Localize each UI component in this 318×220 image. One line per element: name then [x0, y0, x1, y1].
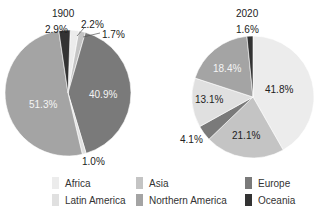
legend: Africa Asia Europe Latin America Norther… [52, 177, 318, 217]
label-2020-northern-america: 18.4% [213, 63, 241, 74]
label-1900-oceania: 2.9% [45, 24, 68, 35]
label-2020-europe: 4.1% [180, 134, 203, 145]
label-1900-asia: 1.7% [102, 29, 125, 40]
legend-item-oceania: Oceania [245, 194, 295, 206]
legend-swatch-icon [52, 177, 59, 189]
legend-item-northern-america: Northern America [136, 194, 227, 206]
legend-swatch-icon [136, 194, 143, 206]
legend-swatch-icon [136, 177, 143, 189]
legend-label: Latin America [65, 195, 126, 206]
legend-item-asia: Asia [136, 177, 168, 189]
legend-label: Africa [65, 178, 91, 189]
legend-swatch-icon [245, 177, 252, 189]
label-1900-africa: 2.2% [81, 19, 104, 30]
label-1900-latin-america: 1.0% [82, 156, 105, 167]
legend-item-latin-america: Latin America [52, 194, 126, 206]
legend-label: Oceania [258, 195, 295, 206]
legend-swatch-icon [52, 194, 59, 206]
legend-item-africa: Africa [52, 177, 91, 189]
label-2020-latin-america: 13.1% [195, 94, 223, 105]
label-2020-africa: 41.8% [265, 84, 293, 95]
label-2020-oceania: 1.6% [236, 24, 259, 35]
legend-label: Northern America [149, 195, 227, 206]
label-2020-asia: 21.1% [232, 130, 260, 141]
label-1900-northern-america: 51.3% [29, 99, 57, 110]
label-1900-europe: 40.9% [89, 89, 117, 100]
legend-label: Asia [149, 178, 168, 189]
legend-swatch-icon [245, 194, 252, 206]
legend-label: Europe [258, 178, 290, 189]
legend-item-europe: Europe [245, 177, 290, 189]
